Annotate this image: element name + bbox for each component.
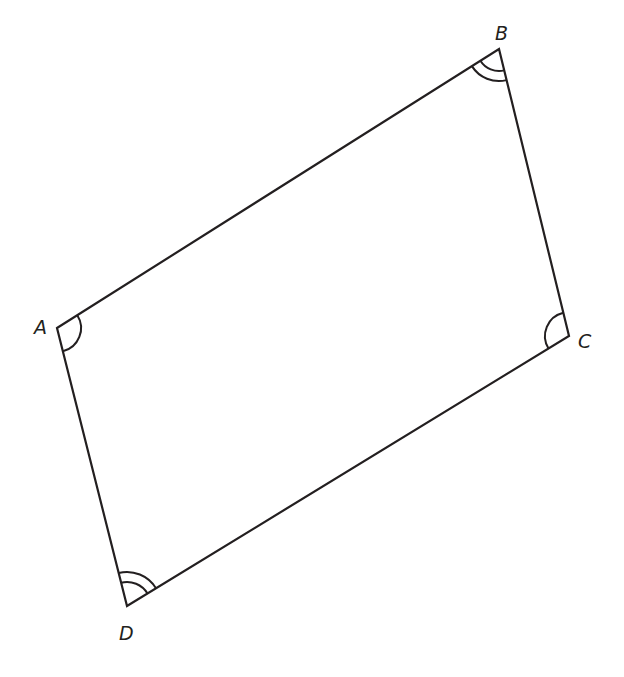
angle-mark-a: [63, 315, 81, 351]
angle-mark-c: [545, 313, 563, 349]
angle-mark-d-outer: [119, 572, 156, 588]
parallelogram-diagram: A B C D: [0, 0, 624, 677]
vertex-label-c: C: [578, 330, 592, 352]
vertex-label-d: D: [119, 622, 134, 644]
angle-mark-b-inner: [480, 61, 504, 71]
parallelogram-abcd: [57, 49, 569, 606]
angle-marks: [63, 61, 563, 594]
angle-mark-d-inner: [121, 582, 147, 594]
vertex-label-a: A: [32, 316, 47, 338]
vertex-labels: A B C D: [32, 22, 592, 644]
parallelogram-edges: [57, 49, 569, 606]
vertex-label-b: B: [495, 22, 508, 44]
